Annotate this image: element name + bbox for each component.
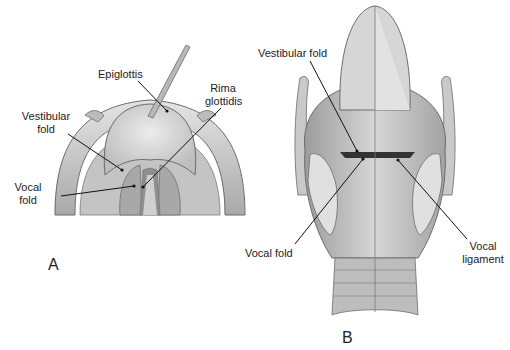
- label-vocal-ligament-line2: ligament: [460, 253, 506, 266]
- label-vestibular-fold-line1: Vestibular: [18, 110, 74, 123]
- label-rima-glottidis-line1: Rima: [205, 82, 241, 95]
- panel-label-a: A: [48, 256, 59, 274]
- label-epiglottis: Epiglottis: [98, 68, 143, 81]
- label-vocal-ligament-line1: Vocal: [460, 240, 506, 253]
- label-rima-glottidis-line2: glottidis: [205, 95, 241, 108]
- label-vocal-fold-a-line2: fold: [12, 194, 44, 207]
- panel-label-b: B: [342, 329, 353, 347]
- larynx-illustration: [0, 0, 510, 350]
- label-vocal-fold-b: Vocal fold: [245, 247, 293, 260]
- label-vestibular-fold-b: Vestibular fold: [258, 47, 327, 60]
- panel-a-illustration: [55, 45, 245, 215]
- label-vestibular-fold-line2: fold: [18, 123, 74, 136]
- label-vocal-fold-a-line1: Vocal: [12, 181, 44, 194]
